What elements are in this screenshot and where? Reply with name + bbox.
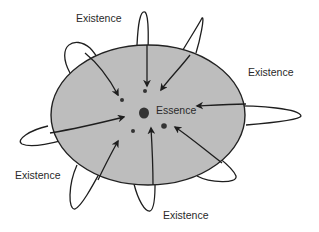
satellite-dot <box>161 123 167 129</box>
existence-label-top: Existence <box>76 12 122 24</box>
satellite-dot <box>143 89 147 93</box>
essence-existence-diagram: Essence Existence Existence Existence Ex… <box>0 0 319 232</box>
existence-label-right: Existence <box>248 66 294 78</box>
satellite-dot <box>120 98 124 102</box>
essence-label: Essence <box>156 104 196 116</box>
essence-core-dot <box>139 108 149 119</box>
existence-label-bottom: Existence <box>163 209 209 221</box>
diagram-canvas <box>0 0 319 232</box>
satellite-dot <box>131 129 135 133</box>
existence-label-left: Existence <box>15 169 61 181</box>
